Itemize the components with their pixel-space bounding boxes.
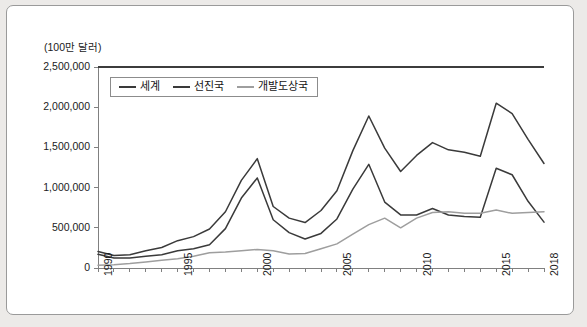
- x-axis-tick-label: 1995: [182, 253, 194, 276]
- y-axis-tick-label: 2,000,000: [18, 100, 90, 112]
- figure-frame: (100만 달러) 2,500,0002,000,0001,500,0001,0…: [6, 5, 574, 315]
- x-axis-tick-label: 2005: [341, 253, 353, 276]
- y-axis-tick-label: 1,500,000: [18, 140, 90, 152]
- chart-legend: 세계선진국개발도상국: [110, 77, 318, 97]
- legend-line-swatch: [237, 86, 254, 88]
- y-axis-tick-label: 500,000: [18, 221, 90, 233]
- x-axis-tick-label: 1990: [102, 253, 114, 276]
- y-axis-tick-label: 2,500,000: [18, 60, 90, 72]
- legend-line-swatch: [173, 86, 190, 88]
- legend-entry: 개발도상국: [237, 81, 308, 92]
- x-axis-tick-label: 2018: [548, 253, 560, 276]
- legend-entry: 세계: [119, 81, 160, 92]
- legend-label: 세계: [140, 81, 160, 92]
- legend-label: 선진국: [194, 81, 224, 92]
- legend-label: 개발도상국: [258, 81, 308, 92]
- y-axis-tick-label: 0: [18, 261, 90, 273]
- line-chart: (100만 달러) 2,500,0002,000,0001,500,0001,0…: [7, 6, 575, 316]
- x-axis-tick-label: 2010: [421, 253, 433, 276]
- x-axis-tick-label: 2015: [500, 253, 512, 276]
- chart-plot-svg: [7, 6, 575, 316]
- y-axis-tick-label: 1,000,000: [18, 181, 90, 193]
- legend-line-swatch: [119, 86, 136, 88]
- legend-entry: 선진국: [173, 81, 224, 92]
- x-axis-tick-label: 2000: [261, 253, 273, 276]
- series-line: [98, 210, 544, 265]
